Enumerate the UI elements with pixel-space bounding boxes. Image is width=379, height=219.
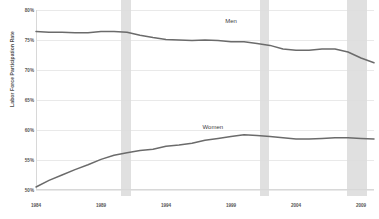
y-tick-label: 70%: [8, 68, 34, 73]
x-tick-label: 2009: [356, 203, 366, 208]
y-axis-tick-labels: 80%75%70%65%60%55%50%: [0, 0, 34, 219]
series-label-men: Men: [225, 18, 237, 24]
x-tick-label: 1999: [226, 203, 236, 208]
plot-area: MenWomen: [36, 10, 374, 190]
x-tick-label: 2004: [291, 203, 301, 208]
y-tick-label: 75%: [8, 38, 34, 43]
y-tick-label: 55%: [8, 158, 34, 163]
series-line-men: [36, 32, 374, 63]
gridline-50%: [36, 190, 374, 191]
series-label-women: Women: [203, 124, 224, 130]
series-lines: [36, 10, 374, 190]
x-tick-label: 1989: [96, 203, 106, 208]
x-tick-label: 1984: [31, 203, 41, 208]
labor-force-participation-chart: Labor Force Participation Rate 80%75%70%…: [0, 0, 379, 219]
y-tick-label: 60%: [8, 128, 34, 133]
y-tick-label: 50%: [8, 188, 34, 193]
y-tick-label: 80%: [8, 8, 34, 13]
x-tick-label: 1994: [161, 203, 171, 208]
series-line-women: [36, 135, 374, 187]
y-tick-label: 65%: [8, 98, 34, 103]
